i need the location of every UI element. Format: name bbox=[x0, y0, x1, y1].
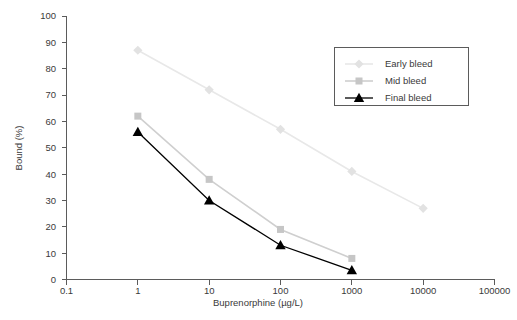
legend-1-square-marker bbox=[356, 78, 363, 85]
y-tick-label: 50 bbox=[45, 142, 56, 153]
series-1-square-marker bbox=[277, 226, 284, 233]
series-0-diamond-marker bbox=[133, 46, 142, 55]
legend-label-0: Early bleed bbox=[385, 58, 433, 69]
y-tick-labels: 0102030405060708090100 bbox=[40, 10, 56, 285]
legend-label-2: Final bleed bbox=[385, 92, 431, 103]
series-1-square-marker bbox=[348, 255, 355, 262]
series-2-triangle-marker bbox=[275, 240, 285, 249]
y-tick-marks bbox=[62, 16, 67, 280]
chart-canvas: 0102030405060708090100 0.111010010001000… bbox=[0, 0, 517, 320]
series-0-diamond-marker bbox=[205, 85, 214, 94]
y-tick-label: 100 bbox=[40, 10, 56, 21]
x-tick-label: 1 bbox=[135, 285, 140, 296]
x-tick-label: 1000 bbox=[341, 285, 362, 296]
legend-label-1: Mid bleed bbox=[385, 75, 426, 86]
x-tick-label: 100000 bbox=[479, 285, 511, 296]
x-tick-label: 10000 bbox=[410, 285, 436, 296]
x-tick-label: 0.1 bbox=[60, 285, 73, 296]
x-tick-labels: 0.1110100100010000100000 bbox=[60, 285, 510, 296]
series-0-diamond-marker bbox=[276, 125, 285, 134]
y-tick-label: 90 bbox=[45, 37, 56, 48]
series-mid-bleed bbox=[134, 113, 355, 262]
series-final-bleed bbox=[133, 127, 357, 275]
series-line bbox=[138, 116, 352, 258]
x-tick-label: 100 bbox=[273, 285, 289, 296]
x-tick-label: 10 bbox=[204, 285, 215, 296]
y-axis-title: Bound (%) bbox=[13, 126, 24, 171]
chart-figure: 0102030405060708090100 0.111010010001000… bbox=[0, 0, 517, 320]
y-tick-label: 40 bbox=[45, 169, 56, 180]
x-tick-marks bbox=[67, 280, 495, 285]
y-tick-label: 20 bbox=[45, 221, 56, 232]
x-axis-title: Buprenorphine (µg/L) bbox=[213, 297, 303, 308]
series-1-square-marker bbox=[206, 176, 213, 183]
y-tick-label: 60 bbox=[45, 116, 56, 127]
y-tick-label: 0 bbox=[51, 274, 56, 285]
series-0-diamond-marker bbox=[419, 204, 428, 213]
y-tick-label: 70 bbox=[45, 89, 56, 100]
series-0-diamond-marker bbox=[347, 167, 356, 176]
series-2-triangle-marker bbox=[133, 127, 143, 136]
chart-legend: Early bleedMid bleedFinal bleed bbox=[335, 48, 469, 106]
y-tick-label: 10 bbox=[45, 248, 56, 259]
series-1-square-marker bbox=[134, 113, 141, 120]
y-tick-label: 80 bbox=[45, 63, 56, 74]
y-tick-label: 30 bbox=[45, 195, 56, 206]
